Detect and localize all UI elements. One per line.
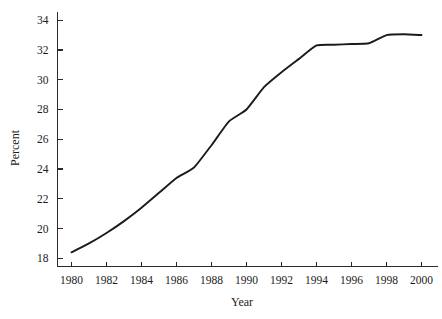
y-tick-label: 18	[37, 252, 49, 264]
x-axis-tick-marks	[72, 262, 422, 267]
y-tick-label: 20	[37, 223, 49, 235]
x-tick-label: 1982	[95, 274, 118, 286]
y-tick-label: 28	[37, 103, 49, 115]
chart-figure: 182022242628303234 198019821984198619881…	[0, 0, 442, 319]
x-tick-label: 1980	[60, 274, 83, 286]
x-tick-label: 1992	[270, 274, 293, 286]
x-axis-tick-labels: 1980198219841986198819901992199419961998…	[60, 274, 433, 286]
x-axis-title: Year	[231, 295, 253, 309]
y-tick-label: 22	[37, 193, 49, 205]
x-tick-label: 1984	[130, 274, 153, 286]
y-tick-label: 26	[37, 133, 49, 145]
y-tick-label: 32	[37, 44, 49, 56]
x-tick-label: 1994	[305, 274, 328, 286]
y-axis-tick-marks	[58, 20, 63, 258]
y-axis-tick-labels: 182022242628303234	[37, 14, 49, 264]
line-chart-canvas: 182022242628303234 198019821984198619881…	[0, 0, 442, 319]
y-axis-title: Percent	[8, 129, 22, 166]
y-tick-label: 30	[37, 74, 49, 86]
y-tick-label: 24	[37, 163, 49, 175]
x-tick-label: 1988	[200, 274, 223, 286]
x-tick-label: 1996	[340, 274, 363, 286]
x-tick-label: 1998	[375, 274, 398, 286]
x-tick-label: 1986	[165, 274, 188, 286]
data-series-line	[72, 34, 422, 252]
x-tick-label: 1990	[235, 274, 258, 286]
y-tick-label: 34	[37, 14, 49, 26]
x-tick-label: 2000	[410, 274, 433, 286]
